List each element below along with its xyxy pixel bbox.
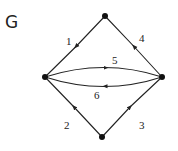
node-right [159, 74, 165, 80]
node-bottom [99, 134, 105, 140]
edge-label-2: 2 [64, 119, 70, 131]
edge-label-3: 3 [139, 119, 145, 131]
node-top [102, 13, 108, 19]
node-left [42, 74, 48, 80]
edge-label-6: 6 [94, 89, 100, 101]
edge-6: 6 [45, 77, 162, 101]
edge-label-4: 4 [139, 32, 145, 44]
graph-canvas: 1 4 2 3 5 6 [0, 0, 178, 151]
graph-diagram: G 1 4 2 3 5 [0, 0, 178, 151]
edge-label-1: 1 [66, 35, 72, 47]
edge-label-5: 5 [112, 54, 118, 66]
